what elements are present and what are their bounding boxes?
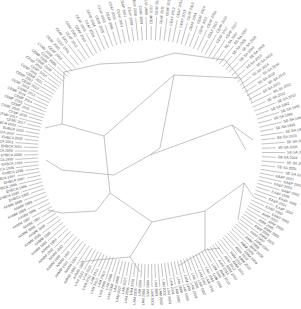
tip-branch [44, 84, 56, 92]
tip-branch [235, 69, 246, 78]
tree-branch [160, 75, 174, 148]
tip-branch [29, 182, 42, 186]
tip-branch [238, 222, 249, 231]
tree-branch [232, 125, 253, 140]
tip-branch [25, 168, 39, 170]
tip-branch [52, 222, 63, 231]
tip-label: SE-SA 2000 [278, 145, 298, 150]
tip-branch [134, 263, 136, 277]
tip-branch [15, 158, 38, 159]
tip-branch [256, 187, 269, 191]
tip-label: EHBCA 2001 [1, 144, 22, 149]
tip-label: CEAF 2010 [155, 0, 160, 15]
tree-branch [114, 155, 150, 175]
tip-label: EHBCA 2000 [1, 153, 22, 157]
tip-branch [47, 216, 58, 224]
tree-branch [244, 183, 253, 196]
tip-branch [112, 259, 116, 272]
tip-branch [260, 173, 274, 176]
tree-branch [174, 75, 240, 78]
tip-branch [181, 260, 185, 273]
tree-branch [240, 78, 252, 102]
tree-branch [238, 183, 244, 220]
tip-label: SE-SA 2004 [278, 155, 298, 160]
tip-branch [40, 90, 52, 97]
tip-branch [261, 169, 284, 173]
tip-branch [234, 226, 244, 235]
tree-branch [62, 72, 64, 124]
tip-label: CEAF 2009 [144, 0, 149, 15]
tip-labels: SE-SA 2007SE-SA 2007SE-SA 2008SE-SA 2008… [0, 0, 301, 305]
tree-branch [104, 75, 174, 136]
tip-branch [229, 231, 239, 241]
tree-branch [152, 211, 205, 222]
tip-branch [164, 18, 167, 41]
tip-branch [260, 129, 274, 132]
tree-branch [62, 170, 114, 175]
tip-branch [223, 56, 232, 67]
tree-branch [100, 62, 142, 64]
tip-branch [34, 196, 47, 201]
tip-branch [136, 18, 138, 41]
tip-branch [78, 244, 86, 255]
tip-branch [225, 235, 234, 245]
tree-branch [48, 210, 62, 213]
tip-label: CEAF 2010 [149, 5, 153, 24]
tip-branch [193, 36, 198, 49]
tree-branch [104, 136, 110, 193]
tree-branch [150, 148, 160, 155]
tip-label: EHBCA 2000 [0, 149, 13, 153]
tip-branch [125, 19, 129, 42]
tip-label: LAM 2004 [141, 289, 146, 306]
tip-branch [261, 138, 275, 140]
tip-label: SE-SA 2000 [287, 151, 301, 155]
tip-branch [141, 264, 142, 278]
tip-label: LAM 2004 [146, 280, 150, 296]
tip-branch [146, 17, 147, 40]
tree-branch [62, 124, 104, 136]
tip-branch [261, 165, 275, 167]
tip-branch [262, 142, 285, 144]
tip-branch [26, 132, 40, 134]
tree-branch [150, 125, 232, 155]
tip-branch [201, 40, 207, 52]
tip-branch [24, 162, 38, 163]
tip-branch [25, 139, 39, 140]
tip-branch [64, 234, 74, 244]
tree-branch [96, 193, 110, 211]
tip-branch [27, 124, 41, 127]
tip-branch [31, 189, 44, 194]
tip-branch [119, 261, 122, 275]
tip-branch [126, 262, 129, 276]
tree-branch [142, 53, 175, 62]
tip-label: CEAF 2009 [138, 6, 143, 25]
tip-label: CEAF 2008 [127, 7, 134, 26]
tip-branch [258, 120, 272, 124]
tip-label: LAM 2003 [150, 289, 154, 305]
phylogenetic-tree: SE-SA 2007SE-SA 2007SE-SA 2008SE-SA 2008… [0, 0, 301, 309]
tip-label: CEAF 2011 [159, 6, 165, 25]
tip-branch [16, 165, 39, 168]
tip-branch [249, 93, 261, 100]
tip-branch [48, 78, 59, 86]
tree-branch [45, 124, 62, 128]
tip-branch [245, 211, 257, 218]
tip-branch [144, 264, 145, 287]
tip-branch [24, 147, 38, 148]
tip-branch [132, 27, 134, 41]
tip-branch [71, 239, 80, 250]
tip-branch [161, 263, 162, 277]
tip-branch [168, 263, 170, 277]
tip-branch [242, 217, 253, 225]
tree-branch [232, 125, 246, 150]
tip-branch [256, 110, 269, 115]
tip-branch [174, 261, 177, 275]
tree-branch [62, 211, 96, 213]
tip-branch [155, 17, 156, 40]
tip-branch [92, 251, 98, 263]
tip-branch [37, 97, 50, 103]
tree-branch [178, 250, 205, 266]
tip-branch [103, 35, 108, 48]
tree-branch [205, 183, 244, 211]
tip-branch [253, 102, 266, 108]
